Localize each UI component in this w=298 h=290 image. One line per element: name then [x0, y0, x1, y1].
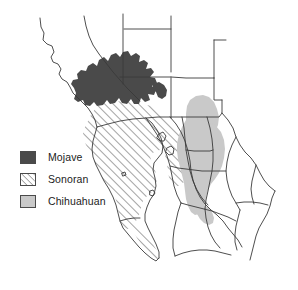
legend-item-mojave: Mojave	[20, 146, 140, 168]
map-legend: Mojave Sonoran Chihuahuan	[20, 146, 140, 212]
legend-swatch-sonoran	[20, 173, 36, 186]
legend-swatch-chihuahuan	[20, 195, 36, 208]
legend-item-sonoran: Sonoran	[20, 168, 140, 190]
legend-label-sonoran: Sonoran	[48, 173, 88, 185]
hatch-pattern-icon	[21, 174, 35, 185]
legend-label-chihuahuan: Chihuahuan	[48, 195, 106, 207]
legend-label-mojave: Mojave	[48, 151, 82, 163]
legend-item-chihuahuan: Chihuahuan	[20, 190, 140, 212]
desert-ecoregion-map: Mojave Sonoran Chihuahuan	[0, 0, 298, 290]
map-canvas	[0, 0, 298, 290]
legend-swatch-mojave	[20, 151, 36, 164]
